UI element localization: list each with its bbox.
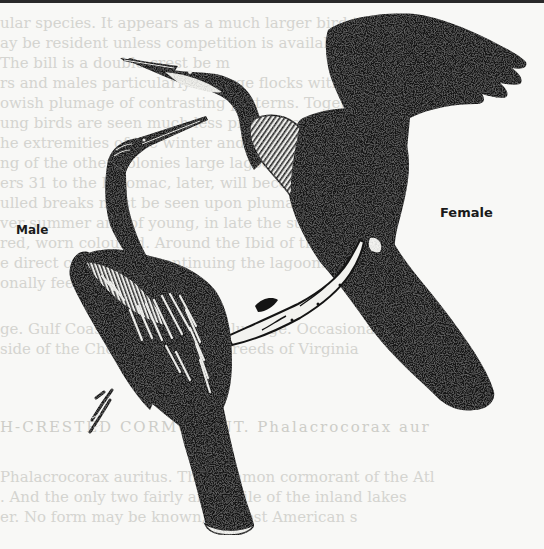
scanned-page: ular species. It appears as a much large…: [0, 0, 544, 549]
male-bill-highlight: [142, 121, 200, 144]
male-bird: [69, 116, 254, 535]
male-tail: [176, 400, 254, 531]
male-head: [108, 116, 208, 172]
female-label: Female: [440, 205, 493, 220]
female-eye: [188, 70, 192, 74]
female-neck: [126, 58, 272, 170]
male-label: Male: [16, 223, 48, 237]
male-neck: [105, 160, 150, 262]
male-foot: [90, 390, 112, 432]
female-bill: [120, 58, 178, 72]
male-eye: [142, 138, 145, 141]
anhinga-illustration: [0, 0, 544, 549]
female-body: [287, 108, 495, 410]
female-foot: [255, 298, 278, 312]
